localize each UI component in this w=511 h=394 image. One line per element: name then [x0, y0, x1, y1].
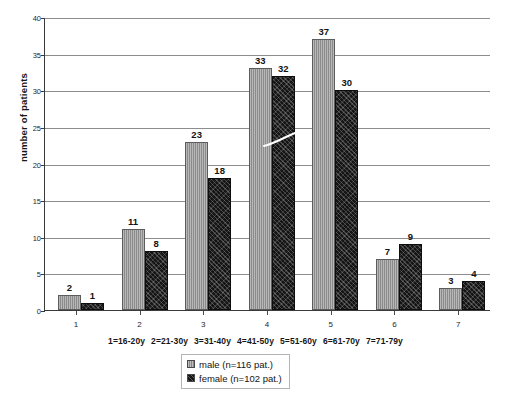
bar-value-label: 7	[385, 246, 390, 257]
bar-value-label: 2	[67, 282, 72, 293]
category-key-entry: 6=61-70y	[323, 336, 360, 346]
category-key-entry: 2=21-30y	[151, 336, 188, 346]
bar-female-group-4: 32	[272, 76, 295, 310]
x-axis-tick-mark	[331, 311, 332, 315]
x-axis-tick-mark	[458, 311, 459, 315]
x-axis-tick-text: 1	[74, 320, 78, 329]
y-axis-tick-label: 35	[33, 50, 41, 59]
bar-value-label: 9	[408, 231, 413, 242]
x-axis-tick-mark	[203, 311, 204, 315]
bar-value-label: 3	[448, 275, 453, 286]
bar-value-label: 37	[319, 26, 330, 37]
bar-male-group-4: 33	[249, 68, 272, 310]
x-axis-category-key: 1=16-20y2=21-30y3=31-40y4=41-50y5=51-60y…	[0, 336, 511, 346]
bar-female-group-7: 4	[462, 281, 485, 310]
category-key-entry: 5=51-60y	[280, 336, 317, 346]
plot-area: 0510152025303540 211182318333237307934	[44, 18, 490, 311]
category-key-entry: 1=16-20y	[108, 336, 145, 346]
bar-group: 2318	[172, 18, 236, 310]
y-axis-tick-label: 10	[33, 233, 41, 242]
legend-label-male: male (n=116 pat.)	[199, 359, 273, 370]
bar-male-group-2: 11	[122, 229, 145, 310]
bar-male-group-6: 7	[376, 259, 399, 310]
x-axis-tick-text: 2	[137, 320, 141, 329]
bar-value-label: 23	[191, 129, 202, 140]
y-axis-title: number of patients	[18, 43, 29, 193]
chart-legend: male (n=116 pat.) female (n=102 pat.)	[181, 354, 290, 389]
x-axis-tick-mark	[394, 311, 395, 315]
x-axis-tick-text: 5	[329, 320, 333, 329]
category-key-entry: 3=31-40y	[194, 336, 231, 346]
bar-group: 3332	[236, 18, 300, 310]
x-axis-tick-label: 7	[426, 311, 490, 329]
legend-item-female: female (n=102 pat.)	[187, 371, 282, 385]
x-axis-tick-labels: 1234567	[44, 311, 490, 329]
x-axis-tick-label: 6	[363, 311, 427, 329]
category-key-entry: 7=71-79y	[366, 336, 403, 346]
x-axis-tick-label: 4	[235, 311, 299, 329]
y-axis-tick-label: 30	[33, 87, 41, 96]
bar-value-label: 8	[153, 238, 158, 249]
x-axis-tick-mark	[267, 311, 268, 315]
x-axis-tick-label: 3	[171, 311, 235, 329]
bar-group: 34	[426, 18, 490, 310]
x-axis-tick-text: 7	[456, 320, 460, 329]
x-axis-tick-text: 3	[201, 320, 205, 329]
bar-female-group-5: 30	[335, 90, 358, 310]
legend-item-male: male (n=116 pat.)	[187, 357, 282, 371]
bar-chart-figure: number of patients 0510152025303540 2111…	[0, 0, 511, 394]
y-axis-tick-label: 20	[33, 160, 41, 169]
bar-female-group-1: 1	[81, 303, 104, 310]
category-key-entry: 4=41-50y	[237, 336, 274, 346]
bar-female-group-3: 18	[208, 178, 231, 310]
bar-male-group-5: 37	[312, 39, 335, 310]
x-axis-tick-mark	[76, 311, 77, 315]
bar-value-label: 32	[278, 63, 289, 74]
bar-female-group-2: 8	[145, 251, 168, 310]
bar-male-group-1: 2	[58, 295, 81, 310]
x-axis-tick-text: 6	[392, 320, 396, 329]
bar-group: 21	[45, 18, 109, 310]
legend-label-female: female (n=102 pat.)	[199, 373, 282, 384]
bar-group: 118	[109, 18, 173, 310]
x-axis-tick-label: 1	[44, 311, 108, 329]
x-axis-tick-mark	[140, 311, 141, 315]
bar-value-label: 18	[214, 165, 225, 176]
male-swatch-icon	[187, 360, 195, 368]
bar-value-label: 30	[342, 77, 353, 88]
y-axis-tick-label: 25	[33, 123, 41, 132]
x-axis-tick-label: 2	[108, 311, 172, 329]
y-axis-tick-label: 40	[33, 14, 41, 23]
female-swatch-icon	[187, 374, 195, 382]
bar-value-label: 33	[255, 55, 266, 66]
y-axis-tick-label: 15	[33, 197, 41, 206]
bar-value-label: 4	[471, 268, 476, 279]
bar-male-group-7: 3	[439, 288, 462, 310]
bar-value-label: 1	[90, 290, 95, 301]
bar-female-group-6: 9	[399, 244, 422, 310]
x-axis-tick-text: 4	[265, 320, 269, 329]
bar-male-group-3: 23	[185, 142, 208, 310]
bar-group: 3730	[299, 18, 363, 310]
bar-group-container: 211182318333237307934	[45, 18, 490, 310]
bar-value-label: 11	[128, 216, 138, 227]
x-axis-tick-label: 5	[299, 311, 363, 329]
bar-group: 79	[363, 18, 427, 310]
